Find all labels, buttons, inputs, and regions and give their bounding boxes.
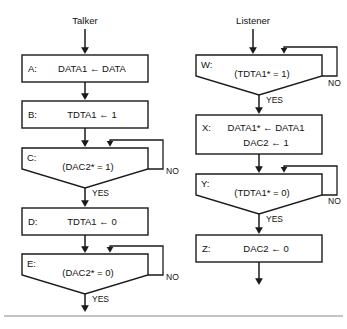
node-x-tag: X: xyxy=(202,122,211,133)
talker-column-title: Talker xyxy=(72,15,97,26)
label-e-no: NO xyxy=(166,272,179,282)
node-e-tag: E: xyxy=(27,258,36,269)
label-e-yes: YES xyxy=(92,294,109,304)
node-b-body: TDTA1 ← 1 xyxy=(67,109,116,120)
node-x-body-line1: DATA1* ← DATA1 xyxy=(228,122,305,133)
node-e-body: (DAC2* = 0) xyxy=(62,267,113,278)
label-c-no: NO xyxy=(166,166,179,176)
node-d-body: TDTA1 ← 0 xyxy=(67,216,116,227)
label-y-yes: YES xyxy=(266,214,283,224)
node-w-body: (TDTA1* = 1) xyxy=(234,68,290,79)
flowchart-figure: Talker Listener A: DATA1 ← DATA B: TDTA1… xyxy=(0,0,347,329)
node-x-body-line2: DAC2 ← 1 xyxy=(243,137,288,148)
node-w-tag: W: xyxy=(201,59,212,70)
node-a-body: DATA1 ← DATA xyxy=(58,63,127,74)
node-c-tag: C: xyxy=(27,152,37,163)
node-b-tag: B: xyxy=(28,109,37,120)
node-z-tag: Z: xyxy=(202,243,210,254)
listener-column-title: Listener xyxy=(236,15,270,26)
node-z-body: DAC2 ← 0 xyxy=(243,243,288,254)
label-w-no: NO xyxy=(328,78,341,88)
flowchart-canvas: Talker Listener A: DATA1 ← DATA B: TDTA1… xyxy=(0,0,347,329)
node-y-body: (TDTA1* = 0) xyxy=(234,187,290,198)
label-w-yes: YES xyxy=(266,95,283,105)
node-a-tag: A: xyxy=(28,63,37,74)
node-c-body: (DAC2* = 1) xyxy=(62,161,113,172)
node-y-tag: Y: xyxy=(201,178,209,189)
label-y-no: NO xyxy=(328,196,341,206)
node-d-tag: D: xyxy=(28,216,38,227)
label-c-yes: YES xyxy=(92,188,109,198)
node-x-box xyxy=(196,115,322,154)
